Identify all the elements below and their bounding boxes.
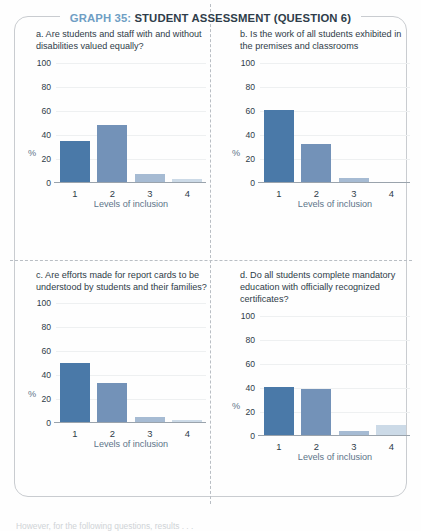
bar-series: 1234 [260,63,410,183]
x-axis-line [54,422,206,423]
bar [301,144,331,182]
plot-area: 1008060402001234 [56,303,206,423]
bar-cell: 4 [169,63,207,183]
bar [60,363,90,423]
y-tick-label: 0 [250,431,255,441]
plot-area: 1008060402001234 [260,316,410,436]
y-tick-label: 60 [245,106,255,116]
panel-a-chart: %1008060402001234Levels of inclusion [26,57,208,209]
y-tick-label: 20 [245,407,255,417]
x-tick-label: 3 [147,188,152,199]
bar-cell: 2 [94,303,132,423]
x-tick-label: 1 [276,441,281,452]
y-tick-label: 80 [245,82,255,92]
x-tick-label: 1 [276,188,281,199]
panel-b-chart: %1008060402001234Levels of inclusion [230,57,412,209]
bar [264,110,294,183]
y-tick-label: 80 [41,82,51,92]
y-axis-label: % [28,148,36,158]
y-tick-label: 100 [37,298,51,308]
page-caption: However, for the following questions, re… [16,521,406,531]
y-tick-label: 60 [245,359,255,369]
y-tick-label: 100 [241,311,255,321]
bar [97,125,127,183]
bar-cell: 2 [298,316,336,436]
x-tick-label: 4 [185,188,190,199]
x-tick-label: 2 [110,428,115,439]
x-tick-label: 3 [351,441,356,452]
y-tick-label: 80 [41,322,51,332]
y-tick-label: 40 [245,130,255,140]
bar-series: 1234 [56,303,206,423]
panel-b-question: b. Is the work of all students exhibited… [240,28,412,53]
y-axis-label: % [232,148,240,158]
panel-c: c. Are efforts made for report cards to … [14,257,218,498]
y-tick-label: 20 [245,154,255,164]
y-tick-label: 100 [37,58,51,68]
y-tick-label: 40 [41,370,51,380]
y-axis-label: % [28,389,36,399]
panel-d-question: d. Do all students complete mandatory ed… [240,269,412,306]
bar-cell: 3 [335,63,373,183]
y-tick-label: 60 [41,346,51,356]
bar-cell: 1 [56,303,94,423]
x-tick-label: 4 [185,428,190,439]
x-axis-label: Levels of inclusion [56,199,206,209]
plot-area: 1008060402001234 [56,63,206,183]
bar-cell: 3 [335,316,373,436]
y-tick-label: 0 [46,178,51,188]
bar [301,389,331,436]
y-axis-label: % [232,401,240,411]
y-tick-label: 20 [41,154,51,164]
bar-cell: 1 [56,63,94,183]
panel-c-question: c. Are efforts made for report cards to … [36,269,208,294]
x-axis-label: Levels of inclusion [260,452,410,462]
bar-cell: 4 [373,316,411,436]
x-tick-label: 2 [110,188,115,199]
x-tick-label: 2 [314,441,319,452]
x-tick-label: 3 [351,188,356,199]
gridline [56,423,206,424]
bar-cell: 2 [94,63,132,183]
bar [264,387,294,436]
bar-cell: 3 [131,63,169,183]
panel-a-question: a. Are students and staff with and witho… [36,28,208,53]
panel-d: d. Do all students complete mandatory ed… [218,257,421,498]
y-tick-label: 80 [245,335,255,345]
x-axis-label: Levels of inclusion [56,439,206,449]
bar-series: 1234 [56,63,206,183]
x-axis-line [258,435,410,436]
horizontal-divider [10,260,412,261]
y-tick-label: 0 [250,178,255,188]
bar-cell: 1 [260,316,298,436]
bar-cell: 4 [373,63,411,183]
y-tick-label: 40 [41,130,51,140]
gridline [56,183,206,184]
x-tick-label: 4 [389,188,394,199]
panel-a: a. Are students and staff with and witho… [14,16,218,257]
y-tick-label: 20 [41,394,51,404]
y-tick-label: 60 [41,106,51,116]
gridline [260,183,410,184]
bar-cell: 1 [260,63,298,183]
vertical-divider [210,4,211,504]
gridline [260,436,410,437]
y-tick-label: 100 [241,58,255,68]
bar-cell: 2 [298,63,336,183]
x-tick-label: 3 [147,428,152,439]
x-tick-label: 1 [72,428,77,439]
plot-area: 1008060402001234 [260,63,410,183]
x-axis-line [258,182,410,183]
x-tick-label: 4 [389,441,394,452]
graph-page: GRAPH 35: STUDENT ASSESSMENT (QUESTION 6… [0,0,421,531]
bar-series: 1234 [260,316,410,436]
x-axis-line [54,182,206,183]
bar-cell: 4 [169,303,207,423]
x-axis-label: Levels of inclusion [260,199,410,209]
bar [60,141,90,183]
panel-d-chart: %1008060402001234Levels of inclusion [230,310,412,462]
panel-b: b. Is the work of all students exhibited… [218,16,421,257]
bar [97,383,127,424]
bar-cell: 3 [131,303,169,423]
x-tick-label: 2 [314,188,319,199]
